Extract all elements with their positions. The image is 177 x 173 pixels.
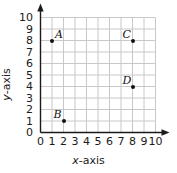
point-label-D: D	[123, 75, 132, 86]
y-tick-10: 10	[19, 12, 33, 23]
coordinate-plane: 012345678910 012345678910 ABCD x-axis y-…	[0, 0, 177, 173]
y-tick-6: 6	[19, 58, 33, 69]
y-tick-5: 5	[19, 70, 33, 81]
y-tick-9: 9	[19, 24, 33, 35]
y-tick-2: 2	[19, 104, 33, 115]
point-label-C: C	[123, 29, 131, 40]
x-axis-title: x-axis	[0, 154, 177, 167]
point-B	[62, 119, 66, 123]
point-A	[50, 39, 54, 43]
y-tick-1: 1	[19, 116, 33, 127]
y-tick-4: 4	[19, 81, 33, 92]
y-axis-title-rest: -axis	[0, 68, 13, 94]
y-tick-0: 0	[19, 127, 33, 138]
y-tick-8: 8	[19, 35, 33, 46]
y-tick-3: 3	[19, 93, 33, 104]
x-axis-title-rest: -axis	[79, 154, 105, 167]
y-axis-title: y-axis	[0, 57, 13, 113]
y-tick-7: 7	[19, 47, 33, 58]
point-label-B: B	[54, 109, 62, 120]
x-tick-10: 10	[149, 136, 163, 147]
point-C	[131, 39, 135, 43]
point-label-A: A	[55, 29, 63, 40]
y-axis-title-italic: y	[0, 94, 13, 101]
